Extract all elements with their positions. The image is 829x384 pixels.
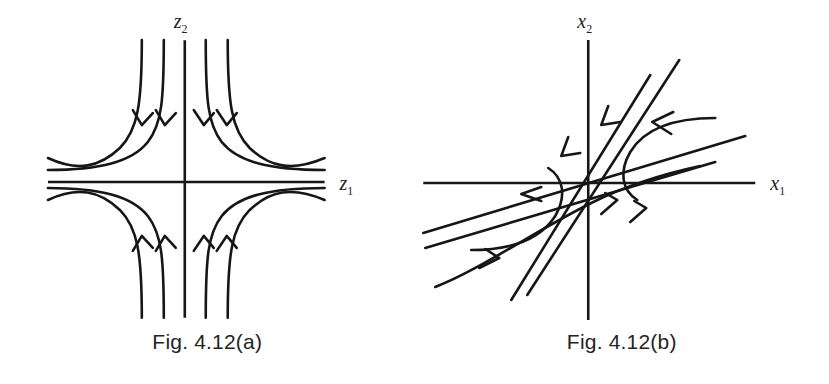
arrow-unstable-left bbox=[521, 187, 541, 201]
trajectory-q1-inner bbox=[206, 40, 325, 170]
trajectory-q2-inner bbox=[48, 40, 164, 170]
trajectory-q3-inner bbox=[48, 188, 164, 318]
figure-caption-b: Fig. 4.12(b) bbox=[415, 330, 829, 354]
axis-label-x1: x1 bbox=[769, 172, 785, 198]
arrow-stable-2 bbox=[561, 137, 580, 156]
figure-panel-b: x2 x1 Fig. 4.12(b) bbox=[415, 0, 829, 384]
axis-label-z2: z2 bbox=[173, 10, 188, 36]
arrowheads-unstable-right bbox=[479, 193, 646, 268]
trajectory-q3-outer bbox=[48, 192, 142, 318]
unstable-manifold-line bbox=[425, 162, 715, 248]
phase-portrait-a-svg: z2 z1 bbox=[0, 0, 415, 330]
arrowheads-unstable-left bbox=[521, 187, 541, 201]
axis-label-x2: x2 bbox=[576, 10, 592, 36]
figure-panel-a: z2 z1 Fig. 4.12(a) bbox=[0, 0, 415, 384]
phase-portrait-a: z2 z1 bbox=[0, 0, 415, 330]
trajectory-q4-outer bbox=[228, 192, 325, 318]
trajectory-q1-outer bbox=[228, 40, 325, 166]
arrow-stable-1 bbox=[601, 106, 620, 125]
phase-portrait-b: x2 x1 bbox=[415, 0, 829, 330]
arrow-unstable-right-3 bbox=[479, 249, 499, 268]
trajectory-q2-outer bbox=[48, 40, 142, 166]
unstable-trajectory-parallel bbox=[423, 136, 745, 233]
trajectory-q4-inner bbox=[206, 188, 325, 318]
axis-label-z1: z1 bbox=[339, 172, 354, 198]
figure-sheet: z2 z1 Fig. 4.12(a) bbox=[0, 0, 829, 384]
arrow-unstable-right-2 bbox=[630, 201, 646, 222]
phase-portrait-b-svg: x2 x1 bbox=[415, 0, 829, 330]
figure-caption-a: Fig. 4.12(a) bbox=[0, 330, 415, 354]
arrowheads-stable bbox=[561, 106, 620, 156]
